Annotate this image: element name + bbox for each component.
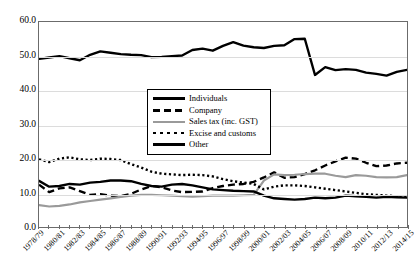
x-axis-tick-mark — [336, 225, 337, 229]
gridline — [39, 160, 407, 161]
legend-swatch-icon — [152, 128, 186, 139]
x-axis-tick-mark — [69, 225, 70, 229]
x-axis-tick-mark — [233, 225, 234, 229]
y-axis: 0.010.020.030.040.050.060.0 — [0, 0, 36, 275]
x-axis: 1978/791980/811982/831984/851986/871988/… — [38, 229, 408, 275]
x-axis-tick-mark — [172, 225, 173, 229]
x-axis-tick-mark — [89, 225, 90, 229]
x-axis-tick-mark — [295, 225, 296, 229]
y-axis-tick-label: 10.0 — [2, 189, 36, 199]
legend-item-label: Company — [186, 106, 222, 115]
legend-swatch-icon — [152, 116, 186, 127]
legend-item[interactable]: Other — [152, 139, 266, 151]
x-axis-tick-mark — [151, 225, 152, 229]
x-axis-tick-mark — [377, 225, 378, 229]
x-axis-tick-mark — [357, 225, 358, 229]
legend-swatch-icon — [152, 93, 186, 104]
legend-item-label: Individuals — [186, 94, 227, 103]
series-line-other — [39, 181, 407, 200]
legend-swatch-icon — [152, 139, 186, 150]
legend-item-label: Other — [186, 140, 208, 149]
x-axis-tick-mark — [192, 225, 193, 229]
x-axis-tick-mark — [274, 225, 275, 229]
x-axis-tick-mark — [213, 225, 214, 229]
gridline — [39, 195, 407, 196]
legend-item[interactable]: Company — [152, 105, 266, 117]
legend-item-label: Sales tax (inc. GST) — [186, 117, 258, 126]
y-axis-tick-label: 30.0 — [2, 120, 36, 130]
legend-item[interactable]: Excise and customs — [152, 128, 266, 140]
x-axis-tick-mark — [316, 225, 317, 229]
chart-container: 0.010.020.030.040.050.060.0 1978/791980/… — [0, 0, 419, 275]
y-axis-tick-label: 0.0 — [2, 223, 36, 233]
x-axis-tick-mark — [254, 225, 255, 229]
x-axis-tick-mark — [48, 225, 49, 229]
y-axis-tick-label: 60.0 — [2, 16, 36, 26]
legend-item[interactable]: Sales tax (inc. GST) — [152, 116, 266, 128]
y-axis-tick-label: 20.0 — [2, 154, 36, 164]
legend-item[interactable]: Individuals — [152, 93, 266, 105]
x-axis-tick-mark — [131, 225, 132, 229]
y-axis-tick-label: 40.0 — [2, 85, 36, 95]
y-axis-tick-label: 50.0 — [2, 51, 36, 61]
legend-swatch-icon — [152, 105, 186, 116]
x-axis-tick-mark — [398, 225, 399, 229]
gridline — [39, 57, 407, 58]
legend-item-label: Excise and customs — [186, 129, 256, 138]
x-axis-tick-mark — [110, 225, 111, 229]
chart-legend: IndividualsCompanySales tax (inc. GST)Ex… — [147, 89, 271, 155]
